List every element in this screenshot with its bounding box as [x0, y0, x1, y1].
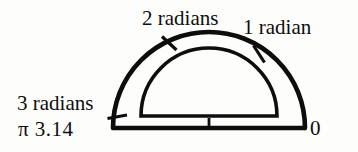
tick-3-radians — [108, 115, 128, 119]
label-pi-value: π 3.14 — [18, 119, 74, 140]
inner-arc — [141, 48, 277, 116]
label-1-radian: 1 radian — [243, 17, 311, 38]
radian-semicircle-figure: 2 radians 1 radian 3 radians π 3.14 0 — [0, 0, 358, 152]
label-2-radians: 2 radians — [142, 8, 218, 29]
label-3-radians: 3 radians — [17, 93, 93, 114]
label-zero: 0 — [310, 118, 321, 139]
